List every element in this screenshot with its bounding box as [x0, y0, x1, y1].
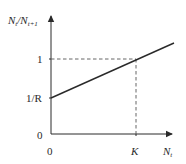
x-tick-label-k: K [131, 146, 138, 157]
y-axis-label: Nt/Nt+1 [8, 15, 38, 30]
x-axis-label: Nt [163, 146, 172, 161]
y-tick-label-zero: 0 [37, 130, 43, 141]
x-tick-label-zero: 0 [47, 146, 53, 157]
y-tick-label-one: 1 [37, 54, 43, 65]
data-line [51, 43, 174, 98]
y-tick-label-one-over-r: 1/R [26, 93, 42, 104]
